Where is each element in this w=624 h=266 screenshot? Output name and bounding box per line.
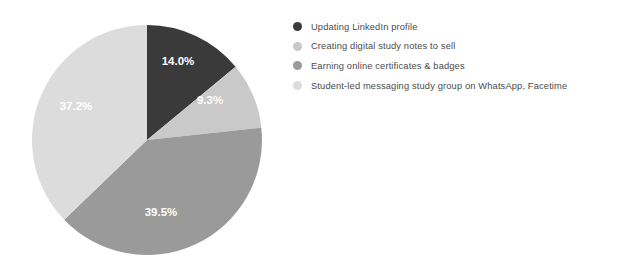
pie-slices [32, 25, 262, 255]
legend-item-earning-online-certificates[interactable]: Earning online certificates & badges [293, 56, 617, 76]
pie-slice-value-label: 37.2% [60, 100, 93, 112]
chart-legend: Updating LinkedIn profile Creating digit… [293, 17, 617, 95]
pie-chart-svg: 14.0%9.3%39.5%37.2% [0, 0, 284, 266]
legend-swatch-icon [293, 42, 302, 51]
legend-item-label: Earning online certificates & badges [311, 61, 465, 71]
pie-slice-value-label: 39.5% [145, 206, 178, 218]
legend-item-student-led-messaging-group[interactable]: Student-led messaging study group on Wha… [293, 76, 617, 96]
pie-chart-figure: 14.0%9.3%39.5%37.2% Updating LinkedIn pr… [0, 0, 624, 266]
legend-item-label: Updating LinkedIn profile [311, 22, 418, 32]
legend-item-creating-digital-study-notes[interactable]: Creating digital study notes to sell [293, 37, 617, 57]
legend-swatch-icon [293, 81, 302, 90]
pie-slice-value-label: 9.3% [197, 94, 223, 106]
legend-item-label: Student-led messaging study group on Wha… [311, 81, 567, 91]
legend-item-updating-linkedin-profile[interactable]: Updating LinkedIn profile [293, 17, 617, 37]
pie-slice-value-label: 14.0% [162, 55, 195, 67]
legend-item-label: Creating digital study notes to sell [311, 41, 455, 51]
pie-chart-plot: 14.0%9.3%39.5%37.2% [0, 0, 284, 266]
legend-swatch-icon [293, 22, 302, 31]
legend-swatch-icon [293, 61, 302, 70]
